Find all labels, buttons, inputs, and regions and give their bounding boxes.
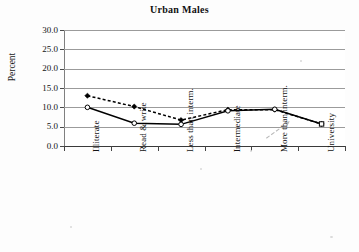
chart-figure: Urban Males Percent 0.05.010.015.020.025…	[0, 0, 359, 252]
y-tick-mark	[60, 30, 64, 31]
plot-area	[64, 30, 345, 146]
data-point-square	[319, 122, 323, 126]
x-tick-mark	[205, 146, 206, 151]
x-tick-mark	[158, 146, 159, 151]
data-point-circle	[226, 109, 231, 114]
data-point-circle	[179, 122, 184, 127]
x-category-label-1: Illiterate	[91, 121, 101, 152]
data-point-circle	[272, 107, 277, 112]
scan-speck	[330, 236, 333, 238]
x-category-label-5: More than interm.	[279, 85, 289, 152]
y-tick-label: 0.0	[14, 142, 58, 151]
data-point-diamond	[85, 93, 90, 98]
x-tick-mark	[298, 146, 299, 151]
data-point-diamond	[132, 104, 137, 109]
y-tick-label: 15.0	[14, 84, 58, 93]
y-tick-mark	[60, 69, 64, 70]
scan-speck	[12, 64, 14, 66]
y-tick-label: 5.0	[14, 122, 58, 131]
scan-speck	[70, 226, 72, 228]
x-category-label-4: Intermediate	[232, 105, 242, 152]
x-tick-mark	[111, 146, 112, 151]
x-tick-mark	[64, 146, 65, 151]
x-category-label-2: Read & write	[138, 102, 148, 152]
y-tick-mark	[60, 107, 64, 108]
y-tick-mark	[60, 88, 64, 89]
data-point-circle	[85, 105, 90, 110]
x-tick-mark	[345, 146, 346, 151]
scan-speck	[200, 168, 202, 170]
y-tick-mark	[60, 49, 64, 50]
series-layer	[64, 30, 345, 146]
y-tick-label: 20.0	[14, 64, 58, 73]
x-category-label-3: Less than interm.	[185, 88, 195, 152]
chart-title: Urban Males	[0, 4, 359, 15]
y-tick-label: 25.0	[14, 45, 58, 54]
y-tick-label: 30.0	[14, 26, 58, 35]
y-tick-label: 10.0	[14, 103, 58, 112]
y-tick-mark	[60, 127, 64, 128]
scan-speck	[300, 60, 302, 62]
data-point-circle	[132, 121, 137, 126]
x-category-label-6: University	[326, 113, 336, 152]
scan-speck	[250, 150, 252, 152]
